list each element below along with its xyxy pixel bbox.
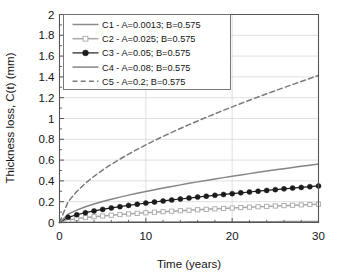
y-tick-label: 0.8 xyxy=(39,133,55,145)
marker-c2 xyxy=(196,208,200,212)
marker-c2 xyxy=(256,205,260,209)
legend-label-c5: C5 - A=0.2; B=0.575 xyxy=(102,77,185,87)
legend-label-c1: C1 - A=0.0013; B=0.575 xyxy=(102,20,201,30)
marker-c3 xyxy=(83,210,88,215)
marker-c3 xyxy=(178,196,183,201)
marker-c2 xyxy=(282,204,286,208)
marker-c3 xyxy=(109,205,114,210)
marker-c3 xyxy=(100,207,105,212)
marker-c2 xyxy=(230,206,234,210)
marker-c3 xyxy=(92,208,97,213)
marker-c2 xyxy=(273,204,277,208)
y-tick-label: 1.4 xyxy=(39,71,56,83)
x-tick-label: 30 xyxy=(312,230,325,242)
marker-c2 xyxy=(221,206,225,210)
marker-c3 xyxy=(307,184,312,189)
curve-c2 xyxy=(60,204,319,222)
legend-label-c4: C4 - A=0.08; B=0.575 xyxy=(102,63,190,73)
marker-c2 xyxy=(291,203,295,207)
legend-marker-c2 xyxy=(83,36,88,41)
y-tick-label: 0.4 xyxy=(39,175,56,187)
x-tick-label: 20 xyxy=(226,230,239,242)
marker-c2 xyxy=(213,207,217,211)
marker-c2 xyxy=(152,210,156,214)
legend-label-c3: C3 - A=0.05; B=0.575 xyxy=(102,48,190,58)
legend-marker-c3 xyxy=(83,50,89,56)
chart-legend: C1 - A=0.0013; B=0.575C2 - A=0.025; B=0.… xyxy=(64,15,231,90)
marker-c2 xyxy=(101,214,105,218)
marker-c3 xyxy=(143,201,148,206)
data-markers xyxy=(66,183,321,222)
marker-c3 xyxy=(212,193,217,198)
legend-label-c2: C2 - A=0.025; B=0.575 xyxy=(102,34,195,44)
y-tick-label: 1.6 xyxy=(39,50,55,62)
marker-c3 xyxy=(221,192,226,197)
marker-c2 xyxy=(170,209,174,213)
marker-c2 xyxy=(187,208,191,212)
y-tick-label: 0.2 xyxy=(39,196,55,208)
marker-c3 xyxy=(187,196,192,201)
marker-c2 xyxy=(178,209,182,213)
thickness-loss-line-chart: 00.20.40.60.811.21.41.61.820102030 Time … xyxy=(0,0,340,278)
marker-c2 xyxy=(239,206,243,210)
marker-c2 xyxy=(265,204,269,208)
marker-c3 xyxy=(273,187,278,192)
y-tick-label: 2 xyxy=(48,9,54,21)
marker-c3 xyxy=(247,189,252,194)
marker-c3 xyxy=(195,195,200,200)
marker-c2 xyxy=(118,212,122,216)
marker-c3 xyxy=(230,191,235,196)
marker-c2 xyxy=(308,202,312,206)
x-tick-label: 0 xyxy=(56,230,62,242)
marker-c3 xyxy=(204,194,209,199)
y-tick-label: 0 xyxy=(48,217,54,229)
marker-c3 xyxy=(117,204,122,209)
curve-c4 xyxy=(60,164,319,223)
marker-c2 xyxy=(144,211,148,215)
marker-c2 xyxy=(126,212,130,216)
marker-c3 xyxy=(264,188,269,193)
marker-c3 xyxy=(74,212,79,217)
y-tick-label: 0.6 xyxy=(39,154,55,166)
marker-c3 xyxy=(161,198,166,203)
marker-c2 xyxy=(109,213,113,217)
marker-c3 xyxy=(169,197,174,202)
y-tick-label: 1.8 xyxy=(39,29,55,41)
marker-c2 xyxy=(161,210,165,214)
marker-c2 xyxy=(247,205,251,209)
marker-c3 xyxy=(238,190,243,195)
marker-c3 xyxy=(135,202,140,207)
marker-c3 xyxy=(66,215,71,220)
marker-c2 xyxy=(299,203,303,207)
marker-c3 xyxy=(256,189,261,194)
marker-c2 xyxy=(204,207,208,211)
marker-c2 xyxy=(135,211,139,215)
marker-c3 xyxy=(281,186,286,191)
marker-c2 xyxy=(83,216,87,220)
y-tick-label: 1 xyxy=(48,113,54,125)
marker-c3 xyxy=(152,200,157,205)
marker-c2 xyxy=(92,215,96,219)
chart-figure: 00.20.40.60.811.21.41.61.820102030 Time … xyxy=(0,0,340,278)
y-tick-label: 1.2 xyxy=(39,92,55,104)
y-axis-title: Thickness loss, C(t) (mm) xyxy=(4,52,16,183)
x-axis-title: Time (years) xyxy=(157,258,221,270)
x-tick-label: 10 xyxy=(139,230,152,242)
marker-c3 xyxy=(290,186,295,191)
marker-c3 xyxy=(126,203,131,208)
marker-c3 xyxy=(299,185,304,190)
